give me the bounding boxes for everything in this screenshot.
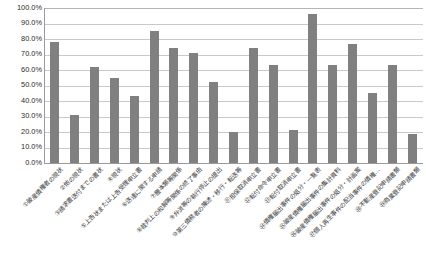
- bar[interactable]: [308, 14, 317, 163]
- bar[interactable]: [70, 115, 79, 163]
- y-axis-tick-label: 20.0%: [0, 128, 42, 136]
- bar-slot: [402, 8, 422, 163]
- bar-slot: [85, 8, 105, 163]
- bar-slot: [204, 8, 224, 163]
- bar[interactable]: [169, 48, 178, 163]
- bar-slot: [343, 8, 363, 163]
- y-axis: 100.0%90.0%80.0%70.0%60.0%50.0%40.0%30.0…: [0, 0, 42, 171]
- bar-slot: [363, 8, 383, 163]
- x-axis-tick-label: ⑲商業登記申請書類: [378, 166, 421, 209]
- y-axis-tick-label: 30.0%: [0, 112, 42, 120]
- y-axis-tick-label: 90.0%: [0, 19, 42, 27]
- bar[interactable]: [388, 65, 397, 163]
- bar[interactable]: [269, 65, 278, 163]
- bar-slot: [45, 8, 65, 163]
- y-axis-tick-label: 60.0%: [0, 66, 42, 74]
- bar-slot: [184, 8, 204, 163]
- bar-slot: [224, 8, 244, 163]
- bar-slot: [323, 8, 343, 163]
- y-axis-tick-label: 0.0%: [0, 159, 42, 167]
- bar[interactable]: [408, 134, 417, 163]
- bar[interactable]: [348, 44, 357, 163]
- bar[interactable]: [50, 42, 59, 163]
- bar-slot: [144, 8, 164, 163]
- bar[interactable]: [130, 96, 139, 163]
- bar[interactable]: [289, 130, 298, 163]
- bar[interactable]: [249, 48, 258, 163]
- x-axis-labels: ①破産債権者の現状②他の現状③請求書送付までの書状④現状⑤上告状または上告受理申…: [45, 164, 422, 276]
- bar-slot: [303, 8, 323, 163]
- bar[interactable]: [209, 82, 218, 163]
- bar[interactable]: [368, 93, 377, 163]
- y-axis-tick-label: 70.0%: [0, 50, 42, 58]
- bar-slot: [105, 8, 125, 163]
- y-axis-tick-label: 100.0%: [0, 4, 42, 12]
- bar-slot: [283, 8, 303, 163]
- y-axis-tick-label: 50.0%: [0, 81, 42, 89]
- bar[interactable]: [229, 132, 238, 163]
- bar-slot: [65, 8, 85, 163]
- bar[interactable]: [189, 53, 198, 163]
- x-axis-tick-label: ④現状: [106, 166, 123, 183]
- bar[interactable]: [110, 78, 119, 163]
- x-axis-tick-label: ①破産債権者の現状: [21, 166, 64, 209]
- y-axis-tick-label: 40.0%: [0, 97, 42, 105]
- bar-slot: [243, 8, 263, 163]
- bar[interactable]: [150, 31, 159, 163]
- bar-series: [45, 8, 422, 163]
- y-axis-tick-label: 80.0%: [0, 35, 42, 43]
- bar[interactable]: [90, 67, 99, 163]
- bar-slot: [263, 8, 283, 163]
- bar[interactable]: [328, 65, 337, 163]
- bar-slot: [164, 8, 184, 163]
- y-axis-tick-label: 10.0%: [0, 143, 42, 151]
- bar-slot: [124, 8, 144, 163]
- bar-chart: 100.0%90.0%80.0%70.0%60.0%50.0%40.0%30.0…: [0, 0, 426, 276]
- bar-slot: [382, 8, 402, 163]
